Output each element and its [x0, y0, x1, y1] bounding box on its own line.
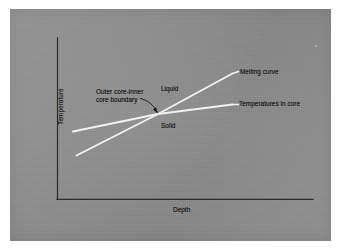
figure-scan: Temperature Depth Outer core-inner core …	[0, 0, 341, 250]
melting-curve-leader	[233, 72, 239, 74]
data-curves	[73, 74, 233, 156]
axis-lines	[57, 38, 313, 200]
boundary-annotation-label: Outer core-inner core boundary	[96, 88, 152, 104]
boundary-arrow-head	[153, 107, 158, 113]
x-axis-label: Depth	[173, 206, 190, 214]
temperatures-in-core-label: Temperatures in core	[239, 100, 300, 108]
temperatures-in-core-line	[73, 105, 233, 132]
solid-region-label: Solid	[161, 122, 175, 130]
melting-curve-label: Melting curve	[240, 68, 279, 76]
y-axis-label: Temperature	[57, 77, 64, 137]
liquid-region-label: Liquid	[161, 85, 178, 93]
leader-lines	[233, 72, 239, 105]
